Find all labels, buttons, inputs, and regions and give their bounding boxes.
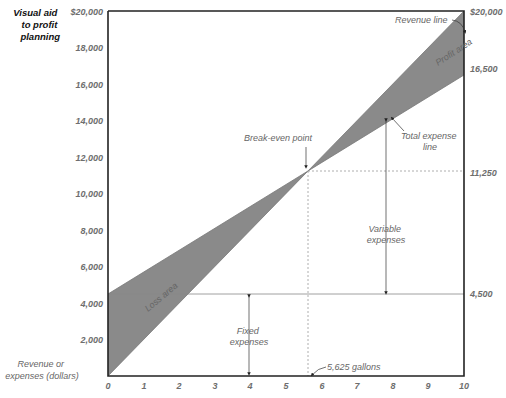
svg-text:2: 2 — [175, 381, 181, 391]
total-expense-line — [108, 75, 464, 294]
svg-text:10,000: 10,000 — [75, 189, 103, 199]
gallons-label: 5,625 gallons — [327, 362, 381, 372]
svg-text:8: 8 — [390, 381, 395, 391]
svg-text:7: 7 — [354, 381, 360, 391]
svg-text:$20,000: $20,000 — [69, 7, 103, 17]
revenue-line-label: Revenue line — [395, 15, 448, 25]
svg-text:14,000: 14,000 — [75, 116, 103, 126]
total-expense-label: Total expense line — [401, 131, 459, 152]
break-even-chart: Visual aid to profit planning $20,000 18… — [0, 0, 506, 398]
svg-text:18,000: 18,000 — [75, 43, 103, 53]
chart-title: Visual aid to profit planning — [13, 7, 60, 42]
fixed-expenses-label: Fixed expenses — [230, 326, 269, 347]
x-axis-ticks: 0 1 2 3 4 5 6 7 8 9 10 — [105, 381, 469, 391]
left-axis-ticks: $20,000 18,000 16,000 14,000 12,000 10,0… — [69, 7, 103, 345]
svg-text:4,000: 4,000 — [79, 299, 103, 309]
svg-text:2,000: 2,000 — [79, 335, 103, 345]
svg-text:4,500: 4,500 — [469, 289, 493, 299]
svg-text:3: 3 — [212, 381, 217, 391]
svg-text:11,250: 11,250 — [470, 168, 497, 178]
variable-expenses-label: Variable expenses — [367, 224, 406, 245]
revenue-line — [108, 11, 464, 376]
svg-text:1: 1 — [141, 381, 146, 391]
svg-text:10: 10 — [459, 381, 469, 391]
break-even-label: Break-even point — [244, 133, 313, 143]
svg-text:4: 4 — [246, 381, 252, 391]
svg-text:16,500: 16,500 — [470, 64, 498, 74]
svg-text:8,000: 8,000 — [80, 226, 103, 236]
svg-text:12,000: 12,000 — [75, 153, 103, 163]
gallons-pointer — [312, 367, 326, 375]
right-axis-marks: $20,000 16,500 11,250 4,500 — [469, 7, 503, 299]
svg-text:5: 5 — [283, 381, 289, 391]
y-axis-label: Revenue or expenses (dollars) — [5, 359, 79, 381]
svg-text:6: 6 — [319, 381, 325, 391]
svg-text:$20,000: $20,000 — [469, 7, 503, 17]
svg-text:9: 9 — [425, 381, 430, 391]
svg-text:6,000: 6,000 — [80, 262, 103, 272]
svg-text:0: 0 — [105, 381, 110, 391]
svg-text:16,000: 16,000 — [75, 80, 103, 90]
total-expense-pointer — [392, 118, 404, 131]
